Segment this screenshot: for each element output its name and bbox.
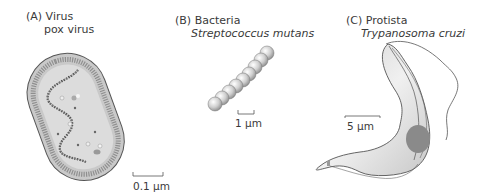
panel-c-organism: Trypanosoma cruzi <box>361 27 465 40</box>
panel-b-organism: Streptococcus mutans <box>191 27 314 40</box>
scale-bar-a <box>133 172 163 176</box>
scale-label-c: 5 µm <box>347 120 374 132</box>
pox-virus-illustration <box>16 42 136 192</box>
panel-c-category: Protista <box>366 14 408 27</box>
panel-a-category: Virus <box>46 10 74 23</box>
panel-c-letter: (C) <box>346 14 362 27</box>
scale-label-b: 1 µm <box>235 117 262 129</box>
panel-a-letter: (A) <box>26 10 42 23</box>
panel-c-title: (C) Protista <box>346 14 407 27</box>
streptococcus-chain-illustration <box>208 46 274 111</box>
scale-label-a: 0.1 µm <box>133 180 170 192</box>
panel-b-category: Bacteria <box>195 14 241 27</box>
nucleus <box>406 125 430 153</box>
scale-bar-b <box>238 110 254 114</box>
scale-bar-c <box>345 116 380 118</box>
panel-b-title: (B) Bacteria <box>175 14 240 27</box>
panel-a-organism: pox virus <box>44 23 94 36</box>
panel-b-letter: (B) <box>175 14 191 27</box>
panel-a-title: (A) Virus <box>26 10 73 23</box>
trypanosoma-illustration <box>316 41 458 178</box>
